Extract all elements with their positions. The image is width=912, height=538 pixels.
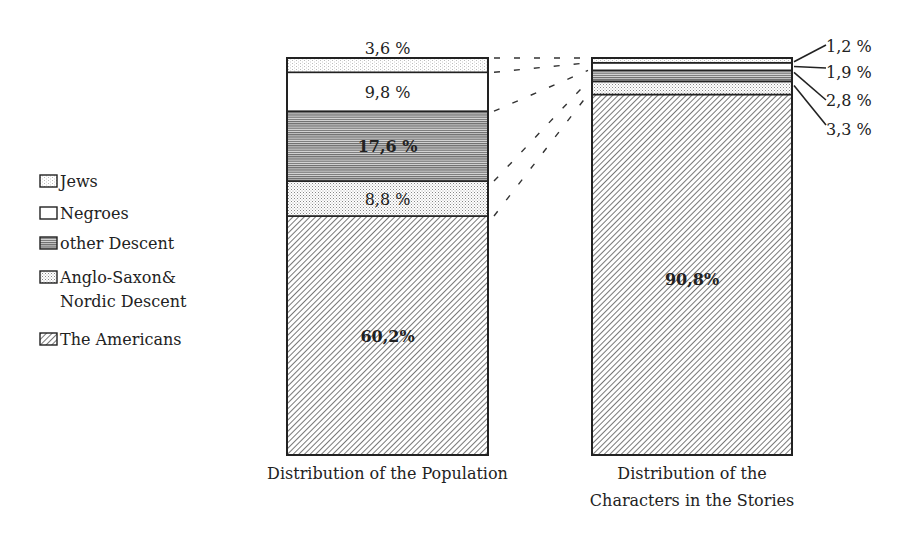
bars [287, 58, 792, 455]
leader-line-anglo-saxon-nordic-descent [794, 85, 826, 125]
legend-swatch-the-americans [40, 333, 57, 345]
leader-line-jews [794, 45, 826, 62]
legend-label-negroes-line-0: Negroes [60, 204, 129, 223]
legend-label-anglo-saxon-nordic-descent-line-1: Nordic Descent [60, 292, 187, 311]
bar-1-segment-negroes [592, 63, 792, 71]
connector-lines [494, 58, 588, 216]
legend-swatch-anglo-saxon-nordic-descent [40, 271, 57, 283]
bar-1-segment-anglo-saxon-nordic-descent [592, 81, 792, 94]
legend-swatch-other-descent [40, 237, 57, 249]
legend-label-the-americans-line-0: The Americans [60, 330, 182, 349]
category-label-1-line-0: Distribution of the [617, 464, 766, 483]
value-label-stories-the-americans: 90,8% [665, 270, 719, 289]
category-label-0-line-0: Distribution of the Population [267, 464, 508, 483]
value-label-population-the-americans: 60,2% [360, 327, 414, 346]
connector-line-2 [494, 81, 588, 181]
leader-line-negroes [794, 67, 826, 68]
connector-line-1 [494, 95, 588, 216]
legend-swatch-jews [40, 175, 57, 187]
value-label-population-anglo-saxon-nordic-descent: 8,8 % [365, 190, 411, 209]
legend: JewsNegroesother DescentAnglo-Saxon&Nord… [40, 172, 187, 349]
bar-1-segment-other-descent [592, 70, 792, 81]
connector-line-4 [494, 63, 588, 73]
legend-label-anglo-saxon-nordic-descent-line-0: Anglo-Saxon& [59, 268, 176, 287]
value-label-population-negroes: 9,8 % [365, 83, 411, 102]
category-labels: Distribution of the PopulationDistributi… [267, 464, 794, 510]
leader-line-other-descent [794, 72, 826, 100]
legend-label-other-descent-line-0: other Descent [60, 234, 175, 253]
bar-0-segment-jews [287, 58, 488, 72]
legend-swatch-negroes [40, 207, 57, 219]
category-label-1-line-1: Characters in the Stories [590, 491, 794, 510]
value-label-population-jews: 3,6 % [365, 39, 411, 58]
stacked-bar-chart: JewsNegroesother DescentAnglo-Saxon&Nord… [0, 0, 912, 538]
connector-line-3 [494, 70, 588, 111]
legend-label-jews-line-0: Jews [58, 172, 98, 191]
value-label-stories-other-descent: 2,8 % [826, 91, 872, 110]
value-label-stories-anglo-saxon-nordic-descent: 3,3 % [826, 120, 872, 139]
value-label-stories-negroes: 1,9 % [826, 63, 872, 82]
value-label-population-other-descent: 17,6 % [358, 137, 418, 156]
value-label-stories-jews: 1,2 % [826, 37, 872, 56]
